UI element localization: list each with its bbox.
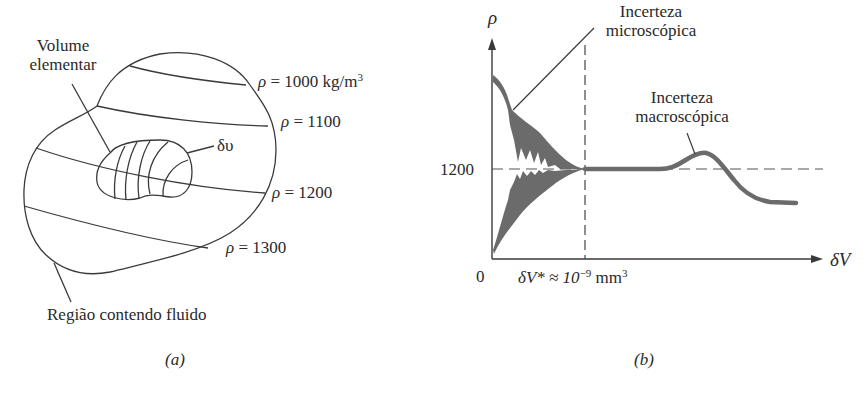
micro-uncertainty-band-lower xyxy=(493,169,585,254)
fluid-region-diagram xyxy=(24,53,276,302)
origin-text: 0 xyxy=(476,267,485,286)
macro-label-line2: macroscópica xyxy=(622,107,742,126)
isoline-label-1000: ρ = 1000 kg/m3 xyxy=(258,72,363,91)
caption-a-text: (a) xyxy=(165,350,185,369)
critical-volume-text: δV* ≈ 10 xyxy=(518,268,580,287)
isoline-1000 xyxy=(130,66,246,85)
macro-label-line1: Incerteza xyxy=(622,88,742,107)
micro-leader-line xyxy=(513,28,594,110)
micro-label-line1: Incerteza xyxy=(596,2,706,21)
micro-label-line2: microscópica xyxy=(596,21,706,40)
isoline-label-1200: ρ = 1200 xyxy=(272,183,332,202)
volume-grid-line xyxy=(148,142,168,194)
caption-b-text: (b) xyxy=(634,350,654,369)
isoline-1100 xyxy=(97,106,268,126)
isoline-value: = 1300 xyxy=(238,238,286,257)
region-label: Região contendo fluido xyxy=(47,305,207,324)
origin-label: 0 xyxy=(476,267,485,286)
rho-symbol: ρ xyxy=(281,112,289,131)
isoline-1300 xyxy=(24,206,208,248)
rho-symbol: ρ xyxy=(226,238,234,257)
caption-a: (a) xyxy=(165,350,185,369)
volume-label-line1: Volume xyxy=(18,36,108,55)
delta-v-label: δυ xyxy=(217,136,233,155)
critical-volume-exponent: −9 xyxy=(580,267,592,279)
y-axis-arrow-icon xyxy=(488,38,496,50)
volume-label: Volume elementar xyxy=(18,36,108,74)
rho-symbol: ρ xyxy=(258,72,266,91)
y-axis-label-text: ρ xyxy=(488,7,497,28)
volume-grid-line xyxy=(125,142,137,200)
micro-uncertainty-band-upper xyxy=(493,75,585,169)
isoline-value: = 1000 kg/m xyxy=(270,72,357,91)
y-tick-text: 1200 xyxy=(440,160,474,179)
isoline-value: = 1100 xyxy=(293,112,340,131)
critical-volume-unit: mm xyxy=(591,268,622,287)
delta-v-leader-line xyxy=(187,146,214,153)
density-plot xyxy=(488,28,823,263)
delta-v-text: δυ xyxy=(217,136,233,155)
isoline-label-1100: ρ = 1100 xyxy=(281,112,341,131)
figure-canvas xyxy=(0,0,866,393)
macro-leader-line xyxy=(687,133,695,154)
isoline-label-1300: ρ = 1300 xyxy=(226,238,286,257)
y-axis-label: ρ xyxy=(488,8,497,27)
macro-uncertainty-label: Incerteza macroscópica xyxy=(622,88,742,126)
y-tick-1200: 1200 xyxy=(440,160,474,179)
unit-exponent: 3 xyxy=(357,71,363,83)
isoline-value: = 1200 xyxy=(284,183,332,202)
critical-volume-unit-exponent: 3 xyxy=(622,267,628,279)
x-axis-label: δV xyxy=(830,250,850,269)
critical-volume-label: δV* ≈ 10−9 mm3 xyxy=(518,268,628,287)
volume-label-line2: elementar xyxy=(18,55,108,74)
volume-grid-line xyxy=(138,141,150,198)
rho-symbol: ρ xyxy=(272,183,280,202)
micro-uncertainty-label: Incerteza microscópica xyxy=(596,2,706,40)
region-text: Região contendo fluido xyxy=(47,305,207,324)
volume-grid-line xyxy=(163,160,188,196)
density-curve xyxy=(585,153,796,203)
caption-b: (b) xyxy=(634,350,654,369)
x-axis-arrow-icon xyxy=(811,255,823,263)
x-axis-label-text: δV xyxy=(830,249,850,270)
